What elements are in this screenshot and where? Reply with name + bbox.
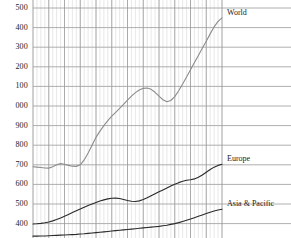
y-axis-tick-label: 700 bbox=[0, 161, 28, 169]
y-axis-tick-label: 400 bbox=[0, 24, 28, 32]
grid-major-vertical bbox=[33, 0, 222, 238]
series-label-asia-pacific: Asia & Pacific bbox=[227, 200, 274, 208]
y-axis-tick-label: 300 bbox=[0, 43, 28, 51]
line-chart: 500400300200100000900800700600500400300 … bbox=[0, 0, 291, 238]
series-label-world: World bbox=[227, 9, 247, 17]
y-axis-tick-label: 800 bbox=[0, 141, 28, 149]
y-axis-tick-label: 500 bbox=[0, 4, 28, 12]
y-axis-tick-label: 600 bbox=[0, 180, 28, 188]
series-label-europe: Europe bbox=[227, 155, 250, 163]
y-axis-tick-label: 500 bbox=[0, 200, 28, 208]
y-axis-tick-label: 400 bbox=[0, 220, 28, 228]
y-axis-tick-label: 900 bbox=[0, 122, 28, 130]
y-axis-tick-label: 200 bbox=[0, 63, 28, 71]
y-axis-tick-label: 000 bbox=[0, 102, 28, 110]
y-axis-tick-label: 100 bbox=[0, 82, 28, 90]
